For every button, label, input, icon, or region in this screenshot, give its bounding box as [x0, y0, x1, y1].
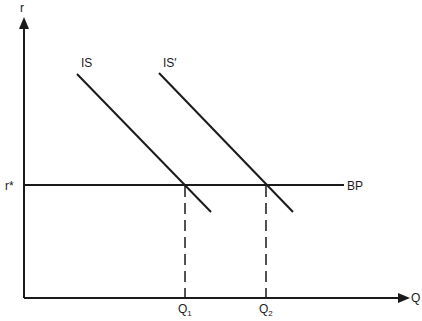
- is-prime-curve: [159, 73, 293, 212]
- is-curve: [77, 74, 211, 212]
- x-axis-label: Q: [411, 292, 420, 304]
- q2-label: Q2: [259, 303, 273, 320]
- bp-label: BP: [347, 180, 363, 192]
- q1-label: Q1: [178, 303, 192, 320]
- x-axis-arrow-icon: [398, 293, 410, 303]
- is-prime-label: IS′: [163, 57, 177, 69]
- y-axis-label: r: [20, 2, 24, 14]
- is-label: IS: [81, 57, 92, 69]
- y-axis-arrow-icon: [19, 17, 29, 29]
- is-bp-diagram: [0, 0, 422, 321]
- r-star-label: r*: [5, 180, 14, 192]
